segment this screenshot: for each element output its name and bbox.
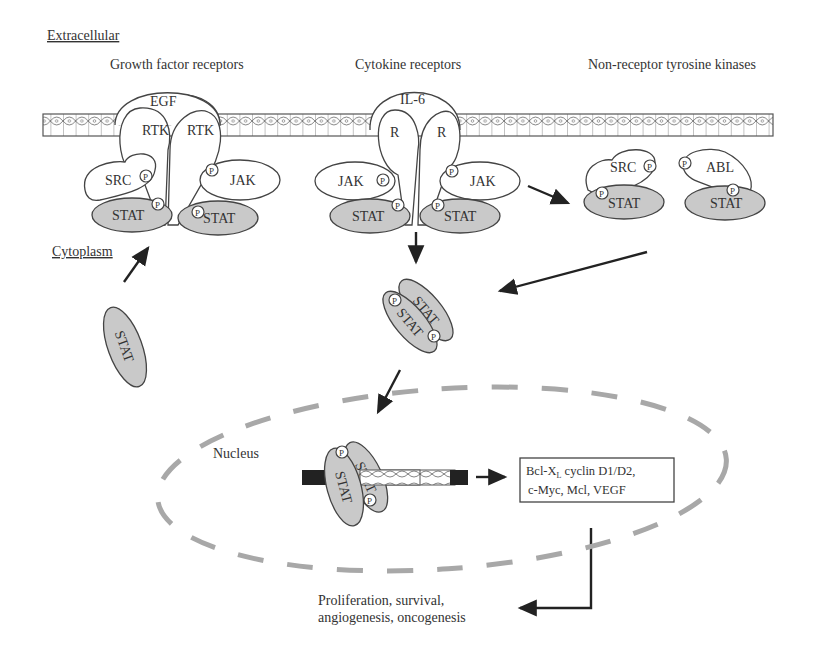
stat-label: STAT xyxy=(112,208,145,223)
phospho-icon: P xyxy=(435,201,440,211)
rtk-label-left: RTK xyxy=(142,123,169,138)
inactive-stat-monomer: STAT xyxy=(95,302,156,393)
phospho-icon: P xyxy=(209,166,214,176)
arrow-cytoplasm-to-receptor xyxy=(124,248,148,282)
nucleus-label: Nucleus xyxy=(213,446,259,461)
non-receptor-kinases-label: Non-receptor tyrosine kinases xyxy=(588,57,756,72)
phospho-icon: P xyxy=(647,162,652,172)
phospho-icon: P xyxy=(392,296,397,306)
jak-label: JAK xyxy=(230,173,256,188)
non-receptor-kinase-complex: SRC P ABL P STAT P STAT P xyxy=(584,149,765,220)
outcomes-line1: Proliferation, survival, xyxy=(318,593,444,608)
phospho-icon: P xyxy=(431,332,436,342)
phospho-icon: P xyxy=(380,176,385,186)
phospho-icon: P xyxy=(367,496,372,506)
phospho-icon: P xyxy=(730,186,735,196)
arrow-jak-to-src xyxy=(528,186,568,203)
stat-label: STAT xyxy=(203,211,236,226)
phospho-icon: P xyxy=(682,159,687,169)
extracellular-label: Extracellular xyxy=(47,28,120,43)
rtk-label-right: RTK xyxy=(187,123,214,138)
src-label: SRC xyxy=(610,160,636,175)
stat-signaling-diagram: Extracellular Cytoplasm Growth factor re… xyxy=(0,0,824,664)
target-genes-box: Bcl-XL cyclin D1/D2, c-Myc, Mcl, VEGF xyxy=(520,458,674,502)
outcomes-line2: angiogenesis, oncogenesis xyxy=(318,610,466,625)
r-label-left: R xyxy=(390,125,400,140)
stat-label: STAT xyxy=(710,196,743,211)
phospho-icon: P xyxy=(339,448,344,458)
cytokine-receptor-complex: IL-6 R R JAK P JAK P STAT P STAT P xyxy=(315,92,520,233)
target-genes-line2: c-Myc, Mcl, VEGF xyxy=(528,483,626,497)
phospho-icon: P xyxy=(449,167,454,177)
src-label: SRC xyxy=(105,173,131,188)
phospho-icon: P xyxy=(143,172,148,182)
target-genes-line1: Bcl-XL cyclin D1/D2, xyxy=(526,464,635,480)
arrow-nrtk-to-dimer xyxy=(500,252,647,291)
stat-label: STAT xyxy=(352,209,385,224)
cytoplasm-label: Cytoplasm xyxy=(52,244,113,259)
arrow-genes-to-outcomes xyxy=(520,528,591,608)
stat-label: STAT xyxy=(608,196,641,211)
cytokine-receptors-label: Cytokine receptors xyxy=(355,57,461,72)
phospho-icon: P xyxy=(395,201,400,211)
egf-ligand-label: EGF xyxy=(150,94,177,109)
jak-label: JAK xyxy=(338,174,364,189)
r-label-right: R xyxy=(437,125,447,140)
abl-label: ABL xyxy=(706,160,734,175)
jak-label: JAK xyxy=(470,174,496,189)
stat-dimer-cytoplasm: STAT STAT P P xyxy=(374,271,462,361)
il6-ligand-label: IL-6 xyxy=(400,92,425,107)
phospho-icon: P xyxy=(599,189,604,199)
growth-factor-receptors-label: Growth factor receptors xyxy=(110,57,244,72)
stat-label: STAT xyxy=(444,209,477,224)
phospho-icon: P xyxy=(195,208,200,218)
phospho-icon: P xyxy=(155,200,160,210)
stat-dimer-on-dna: STAT STAT P P xyxy=(317,436,420,530)
